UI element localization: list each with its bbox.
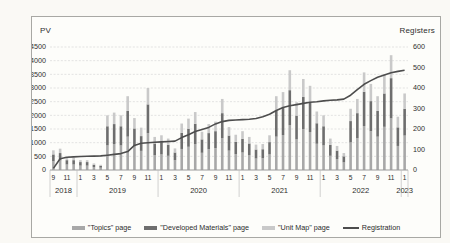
bar-segment [113,124,116,144]
bar-segment [376,96,379,111]
bar-segment [356,99,359,113]
bar-segment [126,96,129,111]
bar-segment [167,145,170,156]
left-axis-tick: 2000 [32,111,46,120]
month-tick: 3 [92,174,96,181]
month-tick: 9 [52,174,56,181]
bar-segment [403,93,406,108]
bar-segment [376,137,379,170]
left-axis-tick: 4500 [32,42,46,51]
bar-segment [214,131,217,148]
bar-segment [228,136,231,151]
legend-bar-swatch [262,226,275,230]
bar-segment [79,166,82,170]
month-tick: 7 [200,174,204,181]
bar-segment [79,162,82,166]
month-tick: 9 [295,174,299,181]
bar-segment [201,132,204,140]
bar-segment [282,135,285,170]
bar-segment [390,78,393,118]
month-tick: 3 [254,174,258,181]
bar-segment [72,158,75,160]
bar-segment [221,138,224,170]
bar-segment [180,124,183,133]
bar-segment [174,153,177,161]
bar-segment [147,88,150,104]
bar-segment [93,165,96,167]
right-axis-tick: 400 [413,83,425,92]
bar-segment [187,147,190,170]
bar-segment [261,144,264,149]
legend-item: Registration [343,223,400,232]
left-axis-tick: 3000 [32,83,46,92]
bar-segment [86,166,89,170]
bar-segment [255,159,258,170]
bar-segment [59,149,62,153]
month-tick: 7 [119,174,123,181]
bar-segment [309,132,312,170]
bar-segment [322,145,325,170]
bar-segment [275,111,278,137]
month-tick: 5 [268,174,272,181]
bar-segment [390,118,393,170]
bar-segment [248,143,251,155]
bar-segment [207,124,210,133]
bar-segment [93,163,96,164]
bar-segment [370,131,373,170]
left-axis-tick: 1000 [32,138,46,147]
bar-segment [316,123,319,144]
bar-segment [234,135,237,142]
bar-segment [383,74,386,93]
bar-segment [126,137,129,170]
bar-segment [187,129,190,147]
bar-segment [349,121,352,142]
month-tick: 7 [362,174,366,181]
legend-label: Registration [362,223,400,232]
bar-segment [282,92,285,108]
bar-segment [268,154,271,170]
bar-segment [397,117,400,128]
bar-segment [255,150,258,159]
right-axis-tick: 0 [413,165,417,174]
legend-label: "Developed Materials" page [160,223,249,232]
month-tick: 11 [145,174,152,181]
bar-segment [288,70,291,90]
bar-segment [194,112,197,124]
bar-segment [72,165,75,170]
bar-segment [207,149,210,170]
bar-segment [268,142,271,154]
bar-segment [370,84,373,101]
bar-segment [106,126,109,145]
bar-segment [336,159,339,170]
legend-item: "Unit Map" page [262,223,330,232]
bar-segment [52,161,55,170]
month-tick: 5 [106,174,110,181]
bar-segment [66,160,69,164]
bar-segment [309,86,312,103]
bar-segment [349,109,352,121]
bar-segment [349,142,352,170]
bar-segment [248,137,251,144]
left-axis-tick: 2500 [32,97,46,106]
bar-segment [180,149,183,170]
bar-segment [153,155,156,170]
month-tick: 7 [281,174,285,181]
month-tick: 11 [63,174,70,181]
left-axis-tick: 500 [34,152,46,161]
bar-segment [201,153,204,170]
bar-segment [234,142,237,154]
month-tick: 11 [226,174,233,181]
bar-segment [140,128,143,136]
month-tick: 11 [307,174,314,181]
bar-segment [234,154,237,170]
right-axis-tick: 100 [413,145,425,154]
bar-segment [255,145,258,150]
bar-segment [133,146,136,170]
bar-segment [147,133,150,170]
bar-segment [322,115,325,126]
bar-segment [120,115,123,126]
bar-segment [282,108,285,135]
bar-segment [329,156,332,170]
bar-segment [403,136,406,170]
bar-segment [241,131,244,139]
